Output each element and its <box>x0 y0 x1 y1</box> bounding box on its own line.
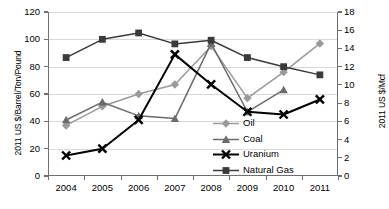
square-marker <box>99 36 106 43</box>
x-axis-tick-label: 2007 <box>155 182 195 193</box>
legend-item-uranium[interactable]: Uranium <box>213 146 333 162</box>
y-axis-left-tick-label: 20 <box>10 143 40 154</box>
x-axis-tick <box>48 176 49 180</box>
y-axis-right-tick-label: 18 <box>344 6 374 17</box>
triangle-marker <box>62 116 70 124</box>
x-axis-tick-label: 2010 <box>264 182 304 193</box>
square-marker <box>208 37 215 44</box>
y-axis-right-tick-label: 10 <box>344 79 374 90</box>
y-axis-left-tick-label: 100 <box>10 33 40 44</box>
legend-item-oil[interactable]: Oil <box>213 115 333 131</box>
square-marker <box>223 167 230 174</box>
y-axis-left-tick-label: 0 <box>10 170 40 181</box>
diamond-marker <box>222 120 230 128</box>
square-marker <box>63 54 70 61</box>
triangle-marker <box>279 86 287 94</box>
y-axis-right-tick <box>338 103 342 104</box>
y-axis-right-tick <box>338 66 342 67</box>
x-axis-tick-label: 2008 <box>191 182 231 193</box>
x-axis-tick <box>193 176 194 180</box>
x-axis-tick-label: 2011 <box>300 182 340 193</box>
x-axis-tick <box>157 176 158 180</box>
square-marker <box>171 40 178 47</box>
square-marker <box>316 71 323 78</box>
y-axis-right-tick <box>338 30 342 31</box>
legend-label: Natural Gas <box>243 164 294 175</box>
diamond-icon <box>213 116 239 129</box>
y-axis-right-tick-label: 4 <box>344 134 374 145</box>
y-axis-right-tick <box>338 157 342 158</box>
legend-label: Uranium <box>243 148 279 159</box>
y-axis-right-tick-label: 6 <box>344 115 374 126</box>
y-axis-right-tick-label: 2 <box>344 152 374 163</box>
x-marker <box>171 50 179 58</box>
y-axis-left-title: 2011 US $/Barrel/Ton/Pound <box>13 23 23 183</box>
y-axis-right-tick <box>338 84 342 85</box>
y-axis-right-tick <box>338 121 342 122</box>
chart-legend: OilCoalUraniumNatural Gas <box>213 115 333 177</box>
diamond-marker <box>134 90 142 98</box>
y-axis-right-tick <box>338 11 342 12</box>
legend-item-coal[interactable]: Coal <box>213 131 333 147</box>
y-axis-left-tick-label: 60 <box>10 88 40 99</box>
plot-area: 020406080100120 024681012141618 20042005… <box>48 12 338 176</box>
triangle-marker <box>98 98 106 106</box>
x-axis-tick-label: 2006 <box>119 182 159 193</box>
legend-item-natural-gas[interactable]: Natural Gas <box>213 162 333 178</box>
y-axis-right-tick-label: 0 <box>344 170 374 181</box>
x-axis-tick-label: 2005 <box>82 182 122 193</box>
square-marker <box>135 30 142 37</box>
x-marker <box>207 80 215 88</box>
chart-container: 2011 US $/Barrel/Ton/Pound 2011 US $/Mcf… <box>0 0 389 209</box>
legend-label: Oil <box>243 117 255 128</box>
x-axis-tick-label: 2009 <box>227 182 267 193</box>
x-marker <box>316 95 324 103</box>
y-axis-right-tick <box>338 139 342 140</box>
x-icon <box>213 147 239 160</box>
y-axis-right-tick-label: 14 <box>344 42 374 53</box>
legend-label: Coal <box>243 133 263 144</box>
y-axis-right-tick-label: 8 <box>344 97 374 108</box>
y-axis-right-tick <box>338 48 342 49</box>
y-axis-right-tick-label: 16 <box>344 24 374 35</box>
square-marker <box>244 54 251 61</box>
y-axis-left-tick-label: 80 <box>10 61 40 72</box>
x-axis-tick-label: 2004 <box>46 182 86 193</box>
x-axis-tick <box>84 176 85 180</box>
y-axis-right-title: 2011 US $/Mcf <box>377 21 387 181</box>
square-icon <box>213 163 239 176</box>
y-axis-left-tick-label: 40 <box>10 115 40 126</box>
triangle-icon <box>213 132 239 145</box>
y-axis-right-tick-label: 12 <box>344 61 374 72</box>
square-marker <box>280 63 287 70</box>
x-axis-tick <box>338 176 339 180</box>
x-axis-tick <box>121 176 122 180</box>
y-axis-left-tick-label: 120 <box>10 6 40 17</box>
